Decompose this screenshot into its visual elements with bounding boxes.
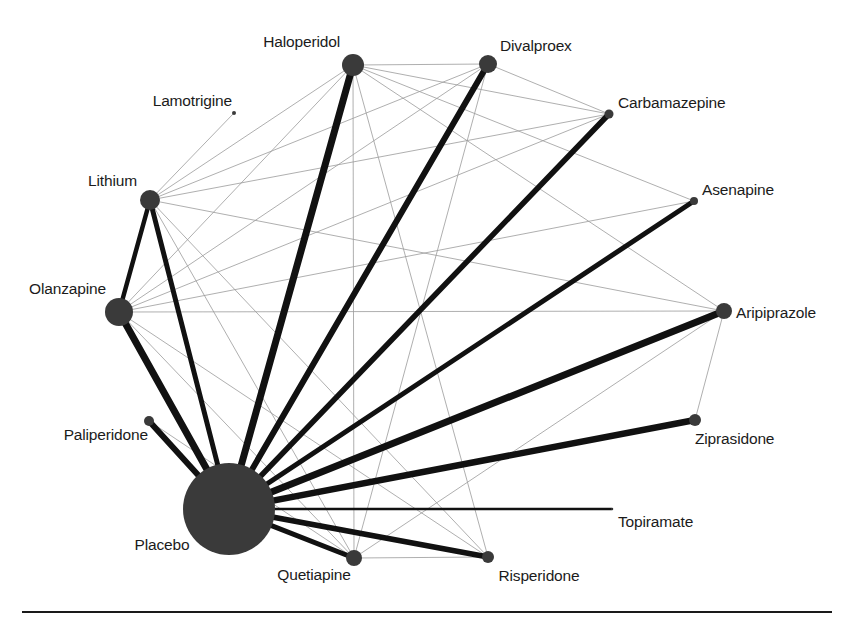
node-label-risperidone: Risperidone xyxy=(498,567,579,585)
network-graph-figure: HaloperidolDivalproexCarbamazepineLamotr… xyxy=(0,0,854,623)
node-label-lamotrigine: Lamotrigine xyxy=(153,92,232,110)
node-topiramate[interactable] xyxy=(611,508,613,510)
node-risperidone[interactable] xyxy=(482,551,494,563)
node-label-placebo: Placebo xyxy=(135,536,190,554)
node-label-divalproex: Divalproex xyxy=(500,37,572,55)
node-label-carbamazepine: Carbamazepine xyxy=(618,94,725,112)
node-label-quetiapine: Quetiapine xyxy=(277,566,350,584)
node-label-asenapine: Asenapine xyxy=(702,181,774,199)
edge-quetiapine-risperidone xyxy=(354,557,488,558)
node-ziprasidone[interactable] xyxy=(689,414,701,426)
node-label-olanzapine: Olanzapine xyxy=(29,280,106,298)
node-label-topiramate: Topiramate xyxy=(618,513,693,531)
node-lithium[interactable] xyxy=(140,190,160,210)
edge-haloperidol-asenapine xyxy=(353,65,694,201)
node-haloperidol[interactable] xyxy=(342,54,364,76)
edge-placebo-divalproex xyxy=(229,64,488,509)
node-label-haloperidol: Haloperidol xyxy=(263,33,340,51)
edge-haloperidol-divalproex xyxy=(353,64,488,65)
node-placebo[interactable] xyxy=(183,463,275,555)
edge-divalproex-carbamazepine xyxy=(488,64,609,114)
node-label-paliperidone: Paliperidone xyxy=(64,426,148,444)
node-paliperidone[interactable] xyxy=(144,416,154,426)
edge-placebo-aripiprazole xyxy=(229,311,724,509)
network-svg xyxy=(0,0,854,623)
node-asenapine[interactable] xyxy=(690,197,698,205)
node-label-lithium: Lithium xyxy=(88,172,137,190)
node-divalproex[interactable] xyxy=(479,55,497,73)
node-quetiapine[interactable] xyxy=(346,550,362,566)
node-lamotrigine[interactable] xyxy=(232,111,236,115)
node-label-aripiprazole: Aripiprazole xyxy=(736,304,816,322)
node-aripiprazole[interactable] xyxy=(716,303,732,319)
node-label-ziprasidone: Ziprasidone xyxy=(695,430,774,448)
node-carbamazepine[interactable] xyxy=(605,110,614,119)
node-olanzapine[interactable] xyxy=(105,298,133,326)
